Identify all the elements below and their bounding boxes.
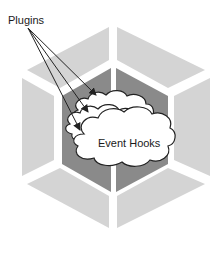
plugins-label: Plugins	[8, 14, 45, 26]
plugin-architecture-diagram: Plugins Event Hooks	[0, 0, 223, 255]
outer-segment-left	[22, 78, 54, 176]
outer-segment-right	[174, 78, 210, 176]
event-hooks-label: Event Hooks	[98, 137, 161, 149]
